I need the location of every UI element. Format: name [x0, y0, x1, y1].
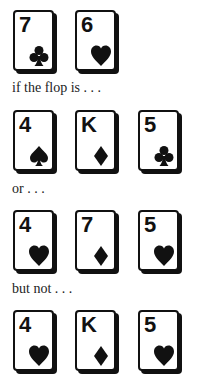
diamond-icon [91, 245, 111, 267]
playing-card: 5 [138, 210, 179, 271]
playing-card: K [75, 310, 116, 371]
card-rank: 4 [19, 213, 31, 237]
club-icon [154, 145, 174, 167]
card-rank: 4 [19, 313, 31, 337]
heart-icon [154, 345, 174, 367]
caption-flop-is: if the flop is . . . [12, 80, 101, 96]
flop-example-2-row: 4 7 5 [0, 210, 197, 276]
playing-card: 4 [13, 110, 54, 171]
playing-card: K [75, 110, 116, 171]
card-rank: 5 [144, 113, 156, 137]
card-rank: 6 [81, 13, 93, 37]
heart-icon [29, 345, 49, 367]
heart-icon [29, 245, 49, 267]
card-rank: 7 [19, 13, 31, 37]
card-rank: 5 [144, 313, 156, 337]
diamond-icon [91, 345, 111, 367]
card-rank: 5 [144, 213, 156, 237]
playing-card: 4 [13, 210, 54, 271]
diamond-icon [91, 145, 111, 167]
heart-icon [154, 245, 174, 267]
playing-card: 5 [138, 110, 179, 171]
hole-cards-row: 7 6 [0, 10, 197, 76]
counter-example-row: 4 K 5 [0, 310, 197, 376]
card-rank: K [81, 313, 97, 337]
caption-but-not: but not . . . [12, 281, 72, 297]
club-icon [29, 45, 49, 67]
card-rank: 4 [19, 113, 31, 137]
flop-example-1-row: 4 K 5 [0, 110, 197, 176]
playing-card: 5 [138, 310, 179, 371]
playing-card: 7 [75, 210, 116, 271]
playing-card: 6 [75, 10, 116, 71]
card-rank: K [81, 113, 97, 137]
playing-card: 4 [13, 310, 54, 371]
spade-icon [29, 145, 49, 167]
heart-icon [91, 45, 111, 67]
playing-card: 7 [13, 10, 54, 71]
caption-or: or . . . [12, 181, 45, 197]
card-rank: 7 [81, 213, 93, 237]
